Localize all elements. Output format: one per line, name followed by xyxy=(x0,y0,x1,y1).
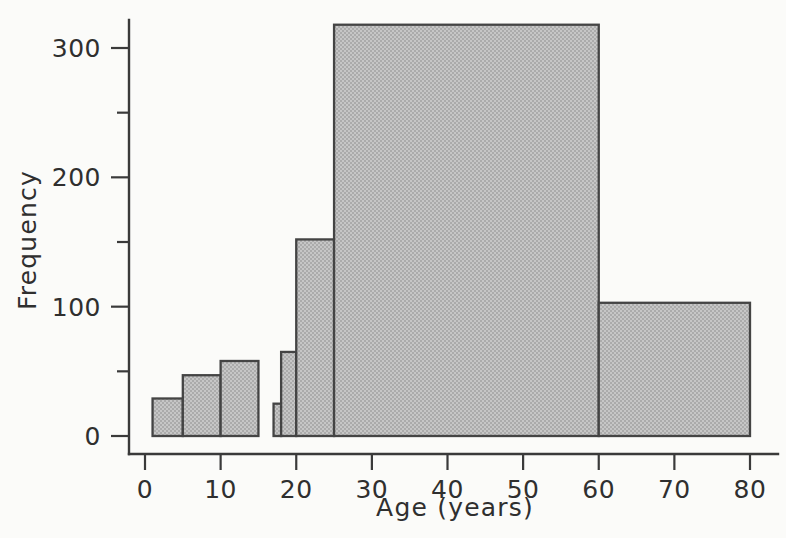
y-axis-tick-label: 0 xyxy=(85,422,101,451)
x-axis-tick-label: 80 xyxy=(734,475,767,504)
y-axis-tick-label: 100 xyxy=(52,293,101,322)
histogram-chart-container: 010020030001020304050607080 Age (years) … xyxy=(0,0,786,538)
x-axis-tick-label: 10 xyxy=(204,475,237,504)
histogram-bar xyxy=(153,398,183,436)
x-axis-tick-label: 60 xyxy=(582,475,615,504)
histogram-bar xyxy=(334,25,599,436)
y-axis-title: Frequency xyxy=(13,170,42,310)
x-axis-tick-label: 20 xyxy=(280,475,313,504)
x-axis-tick-label: 70 xyxy=(658,475,691,504)
bars-group xyxy=(153,25,750,436)
y-axis-tick-label: 200 xyxy=(52,163,101,192)
x-axis-tick-label: 0 xyxy=(137,475,153,504)
histogram-bar xyxy=(221,361,259,436)
x-axis-title: Age (years) xyxy=(376,493,534,522)
histogram-svg: 010020030001020304050607080 Age (years) … xyxy=(0,0,786,538)
histogram-bar xyxy=(281,352,296,436)
histogram-bar xyxy=(183,375,221,436)
histogram-bar xyxy=(599,303,750,436)
y-axis-tick-label: 300 xyxy=(52,34,101,63)
histogram-bar xyxy=(296,239,334,436)
